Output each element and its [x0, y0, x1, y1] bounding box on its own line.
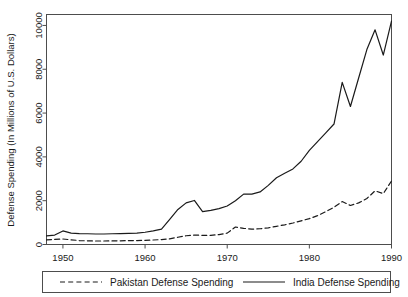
legend-label-pakistan: Pakistan Defense Spending: [110, 277, 233, 288]
chart-legend: Pakistan Defense Spending India Defense …: [43, 272, 400, 293]
y-tick-label: 6000: [33, 103, 44, 124]
x-tick-label: 1990: [381, 252, 402, 263]
y-tick-label: 8000: [33, 59, 44, 80]
x-tick-label: 1970: [217, 252, 238, 263]
x-tick-label: 1950: [52, 252, 73, 263]
defense-spending-chart: Defense Spending (In Millions of U.S. Do…: [0, 0, 408, 297]
y-axis-label: Defense Spending (In Millions of U.S. Do…: [5, 33, 16, 226]
y-axis-ticks: 0200040006000800010000: [33, 12, 47, 247]
plot-frame: [47, 15, 392, 245]
y-tick-label: 10000: [33, 12, 44, 38]
y-tick-label: 2000: [33, 190, 44, 211]
x-tick-label: 1960: [135, 252, 156, 263]
chart-canvas: Defense Spending (In Millions of U.S. Do…: [0, 0, 408, 297]
y-tick-label: 4000: [33, 146, 44, 167]
series-line-india-defense-spending: [47, 21, 392, 236]
series-line-pakistan-defense-spending: [47, 181, 392, 241]
y-tick-label: 0: [33, 242, 44, 247]
legend-label-india: India Defense Spending: [293, 277, 400, 288]
x-axis-ticks: 19501960197019801990: [52, 245, 402, 263]
x-tick-label: 1980: [299, 252, 320, 263]
